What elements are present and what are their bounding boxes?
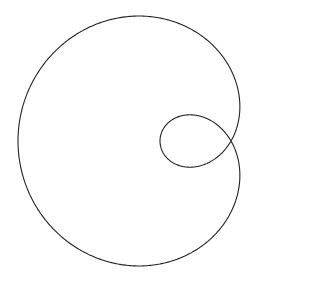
limacon-curve <box>18 16 240 266</box>
limacon-plot <box>0 0 315 281</box>
